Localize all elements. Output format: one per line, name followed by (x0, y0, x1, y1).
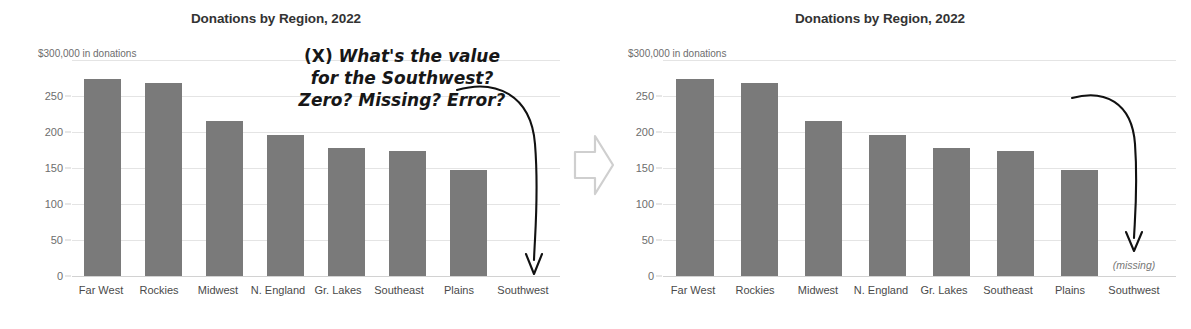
axis-baseline (663, 276, 1176, 277)
y-tick-label: 200 (636, 126, 654, 138)
xlabel-after-southeast: Southeast (983, 284, 1033, 296)
bar-southeast (997, 151, 1034, 276)
bar-plains (1061, 170, 1098, 276)
annotation-mark-x: (X) (304, 46, 333, 66)
xlabel-after-midwest: Midwest (798, 284, 838, 296)
xlabel-gr-lakes: Gr. Lakes (314, 284, 361, 296)
y-tick-mark (65, 96, 71, 97)
y-tick-mark (65, 132, 71, 133)
y-tick-mark (656, 96, 662, 97)
bar-far-west (84, 79, 121, 276)
y-tick-mark (65, 168, 71, 169)
chart-panel-before: Donations by Region, 2022 $300,000 in do… (0, 0, 580, 329)
y-tick-label: 200 (45, 126, 63, 138)
bar-rockies (741, 83, 778, 276)
page-title-after: Donations by Region, 2022 (600, 11, 1160, 26)
y-tick-label: 50 (51, 234, 63, 246)
xlabel-n-england: N. England (251, 284, 305, 296)
xlabel-plains: Plains (444, 284, 474, 296)
xlabel-after-southwest: Southwest (1108, 284, 1159, 296)
figure-canvas: Donations by Region, 2022 $300,000 in do… (0, 0, 1191, 329)
bar-southeast (389, 151, 426, 276)
xlabel-rockies: Rockies (139, 284, 178, 296)
y-tick-label: 150 (45, 162, 63, 174)
y-tick-mark (656, 132, 662, 133)
y-tick-mark (656, 240, 662, 241)
missing-value-label: (missing) (1113, 259, 1156, 271)
axis-caption: $300,000 in donations (38, 48, 136, 59)
xlabel-after-plains: Plains (1055, 284, 1085, 296)
bar-far-west (676, 79, 713, 276)
bar-n-england (869, 135, 906, 276)
xlabel-after-gr-lakes: Gr. Lakes (920, 284, 967, 296)
xlabel-midwest: Midwest (198, 284, 238, 296)
y-tick-label: 100 (636, 198, 654, 210)
y-tick-label: 250 (45, 90, 63, 102)
plot-area-after: 250200150100500 (663, 60, 1176, 276)
xlabel-southwest: Southwest (497, 284, 548, 296)
y-tick-label: 0 (57, 270, 63, 282)
xlabel-far-west: Far West (79, 284, 123, 296)
bar-midwest (206, 121, 243, 276)
y-tick-mark (656, 168, 662, 169)
y-tick-mark (65, 240, 71, 241)
y-tick-label: 150 (636, 162, 654, 174)
page-title: Donations by Region, 2022 (6, 11, 546, 26)
xlabel-after-rockies: Rockies (735, 284, 774, 296)
annotation-before: (X) What's the value for the Southwest? … (283, 46, 521, 111)
y-tick-label: 100 (45, 198, 63, 210)
bar-plains (450, 170, 487, 276)
y-tick-mark (656, 204, 662, 205)
bar-gr-lakes (328, 148, 365, 276)
xlabel-after-n-england: N. England (854, 284, 908, 296)
y-tick-mark (65, 204, 71, 205)
axis-caption-after: $300,000 in donations (628, 48, 726, 59)
bar-n-england (267, 135, 304, 276)
bar-rockies (145, 83, 182, 276)
xlabel-southeast: Southeast (374, 284, 424, 296)
y-tick-mark (656, 276, 662, 277)
y-tick-mark (65, 276, 71, 277)
y-tick-label: 0 (648, 270, 654, 282)
gridline (663, 60, 1176, 61)
y-tick-label: 250 (636, 90, 654, 102)
axis-baseline (72, 276, 560, 277)
chart-panel-after: Donations by Region, 2022 $300,000 in do… (600, 0, 1191, 329)
xlabel-after-far-west: Far West (671, 284, 715, 296)
bar-midwest (805, 121, 842, 276)
bar-gr-lakes (933, 148, 970, 276)
y-tick-label: 50 (642, 234, 654, 246)
